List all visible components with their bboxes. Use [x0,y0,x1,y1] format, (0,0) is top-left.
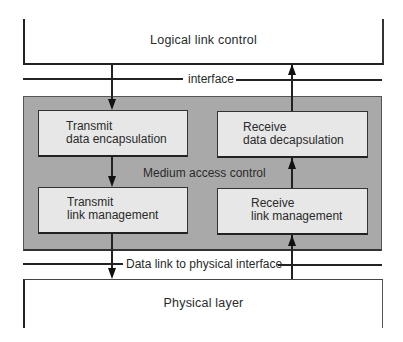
arrow-down-icon [108,268,116,279]
data-link-interface-line-right [278,264,382,266]
logical-link-control-label: Logical link control [25,33,382,47]
receive-data-decapsulation-box: Receive data decapsulation [217,111,368,158]
transmit-path-line-2 [111,157,113,177]
physical-layer-label: Physical layer [25,296,382,310]
box-label-line2: link management [251,210,342,223]
data-link-to-physical-interface-label: Data link to physical interface [124,257,284,271]
box-label-line2: data encapsulation [66,133,167,146]
box-label-line2: link management [67,209,158,222]
receive-link-management-box: Receive link management [217,188,368,235]
interface-line-right [236,79,382,81]
arrow-up-icon [288,235,296,246]
arrow-up-icon [288,64,296,75]
data-link-interface-line-left [23,263,123,265]
medium-access-control-label: Medium access control [143,166,266,180]
logical-link-control-layer: Logical link control [23,19,384,65]
interface-label: interface [186,72,236,86]
physical-layer: Physical layer [23,279,383,328]
transmit-link-management-box: Transmit link management [38,187,188,234]
transmit-path-line-1 [111,64,113,100]
arrow-down-icon [108,99,116,110]
arrow-down-icon [108,176,116,187]
box-label-line2: data decapsulation [243,134,344,147]
arrow-up-icon [288,158,296,169]
interface-line-left [23,78,183,80]
transmit-data-encapsulation-box: Transmit data encapsulation [38,110,188,157]
